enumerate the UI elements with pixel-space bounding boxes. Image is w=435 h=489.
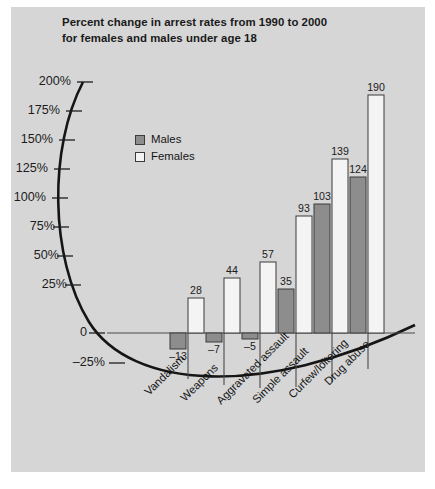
y-tick-label-neg25: –25% [41, 355, 105, 369]
bar-group-drug-abuse [350, 95, 384, 333]
bar-males-curfew-loitering [314, 204, 330, 333]
legend-swatch-females-icon [135, 152, 145, 162]
bar-males-aggravated-assault [242, 333, 258, 339]
chart-figure: Percent change in arrest rates from 1990… [0, 0, 435, 489]
legend-label-males: Males [151, 134, 181, 145]
bar-males-weapons [206, 333, 222, 342]
legend-item-males: Males [135, 132, 195, 147]
bar-females-curfew-loitering [332, 159, 348, 333]
bar-females-aggravated-assault [260, 262, 276, 333]
y-tick-label-75: 75% [0, 219, 55, 233]
chart-panel: Percent change in arrest rates from 1990… [11, 7, 425, 472]
value-label-males-weapons: –7 [194, 343, 234, 355]
bar-males-drug-abuse [350, 177, 366, 333]
value-label-females-aggravated-assault: 57 [248, 248, 288, 260]
y-tick-label-150: 150% [0, 132, 53, 146]
chart-title-line1: Percent change in arrest rates from 1990… [62, 15, 392, 31]
bar-females-weapons [224, 278, 240, 333]
value-label-females-weapons: 44 [212, 264, 252, 276]
value-label-females-simple-assault: 93 [284, 202, 324, 214]
bar-group-curfew-loitering [314, 159, 348, 333]
legend-label-females: Females [151, 151, 195, 162]
value-label-males-curfew-loitering: 103 [302, 190, 342, 202]
bar-males-vandalism [170, 333, 186, 349]
bar-females-vandalism [188, 298, 204, 333]
value-label-females-vandalism: 28 [176, 284, 216, 296]
y-tick-label-100: 100% [0, 190, 46, 204]
value-label-males-drug-abuse: 124 [338, 163, 378, 175]
y-tick-label-125: 125% [0, 161, 48, 175]
chart-title: Percent change in arrest rates from 1990… [62, 15, 392, 46]
y-tick-label-175: 175% [0, 103, 60, 117]
value-label-males-simple-assault: 35 [266, 275, 306, 287]
value-label-females-drug-abuse: 190 [356, 81, 396, 93]
bar-females-drug-abuse [368, 95, 384, 333]
legend-swatch-males-icon [135, 135, 145, 145]
y-tick-label-0: 0 [23, 325, 87, 339]
bar-group-vandalism [170, 298, 204, 349]
y-tick-label-25: 25% [3, 277, 67, 291]
bar-males-simple-assault [278, 289, 294, 333]
y-tick-label-200: 200% [7, 74, 71, 88]
legend-item-females: Females [135, 149, 195, 164]
value-label-females-curfew-loitering: 139 [320, 145, 360, 157]
y-tick-label-50: 50% [0, 248, 59, 262]
chart-title-line2: for females and males under age 18 [62, 31, 392, 47]
chart-legend: Males Females [135, 132, 195, 166]
